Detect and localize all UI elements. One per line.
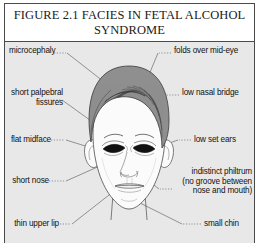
label-short-palpebral-fissures: short palpebral fissures [5, 88, 63, 107]
label-small-chin: small chin [204, 219, 254, 229]
label-indistinct-philtrum: indistinct philtrum (no groove between n… [174, 167, 252, 196]
label-low-set-ears: low set ears [194, 135, 252, 145]
label-folds-over-mid-eye: folds over mid-eye [174, 46, 254, 56]
figure-container: FIGURE 2.1 FACIES IN FETAL ALCOHOL SYNDR… [0, 0, 260, 250]
label-microcephaly: microcephaly [9, 46, 55, 56]
diagram-area: microcephaly short palpebral fissures fl… [5, 42, 254, 243]
label-thin-upper-lip: thin upper lip [7, 219, 59, 229]
figure-frame: FIGURE 2.1 FACIES IN FETAL ALCOHOL SYNDR… [4, 3, 255, 243]
label-low-nasal-bridge: low nasal bridge [182, 88, 254, 98]
figure-title-bar: FIGURE 2.1 FACIES IN FETAL ALCOHOL SYNDR… [5, 4, 254, 42]
label-flat-midface: flat midface [7, 135, 51, 145]
label-short-nose: short nose [7, 176, 49, 186]
page-title: FIGURE 2.1 FACIES IN FETAL ALCOHOL SYNDR… [6, 8, 254, 38]
